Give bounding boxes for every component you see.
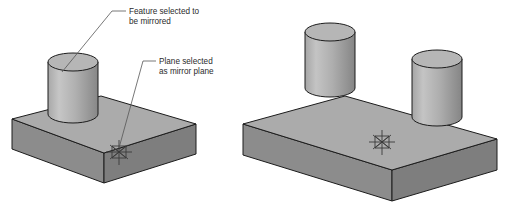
cylinder-body-mirrored bbox=[412, 59, 462, 126]
annotation-plane-line2: as mirror plane bbox=[159, 67, 214, 76]
mirror-feature-diagram: Feature selected to be mirrored Plane se… bbox=[0, 0, 522, 212]
annotation-feature-line1: Feature selected to bbox=[129, 7, 200, 16]
annotation-feature-line2: be mirrored bbox=[129, 17, 171, 26]
cylinder-top-face bbox=[48, 53, 98, 71]
cylinder-top-face-mirrored bbox=[412, 50, 462, 68]
cylinder-top-face-original bbox=[305, 23, 355, 41]
cylinder-body-original bbox=[305, 32, 355, 97]
annotation-plane-line1: Plane selected bbox=[159, 57, 213, 66]
annotation-plane-selected: Plane selected as mirror plane bbox=[159, 57, 214, 76]
